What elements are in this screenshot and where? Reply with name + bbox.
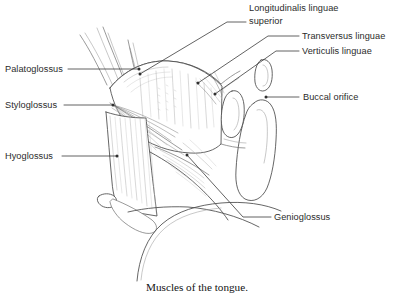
label-styloglossus: Styloglossus (5, 100, 58, 110)
label-longitudinalis-linguae-superior-line1: Longitudinalis linguae (249, 3, 338, 13)
leader-dot-transversus-linguae (197, 82, 200, 85)
chin-jaw-contour (137, 202, 281, 281)
leader-transversus-linguae (198, 36, 299, 83)
leader-dot-buccal-orifice (265, 96, 268, 99)
leader-dot-verticulis-linguae (214, 93, 217, 96)
label-buccal-orifice: Buccal orifice (303, 92, 358, 102)
label-palatoglossus: Palatoglossus (5, 64, 63, 74)
label-longitudinalis-linguae-superior-line2: superior (249, 16, 283, 26)
label-transversus-linguae: Transversus linguae (302, 31, 385, 41)
label-genioglossus: Genioglossus (274, 212, 331, 222)
leader-dot-styloglossus (112, 104, 115, 107)
leader-dot-hyoglossus (116, 155, 119, 158)
tongue-muscles-illustration: Longitudinalis linguae superior Transver… (0, 0, 395, 301)
label-hyoglossus: Hyoglossus (5, 151, 53, 161)
figure-caption: Muscles of the tongue. (146, 281, 248, 293)
leader-dot-genioglossus (186, 154, 189, 157)
anatomy-figure: Longitudinalis linguae superior Transver… (0, 0, 395, 301)
leader-dot-longitudinalis-linguae-superior (139, 73, 142, 76)
label-verticulis-linguae: Verticulis linguae (302, 46, 372, 56)
anatomy-drawing (80, 27, 281, 281)
leader-dot-palatoglossus (138, 68, 141, 71)
